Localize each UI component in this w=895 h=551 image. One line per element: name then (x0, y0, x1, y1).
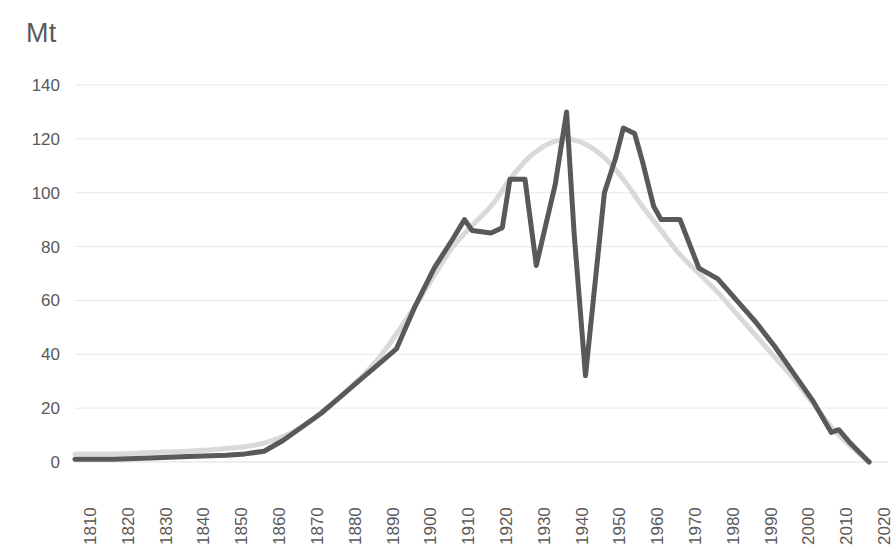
chart-plot-area (0, 0, 895, 551)
gridlines (75, 85, 888, 462)
chart-page: Mt 020406080100120140 181018201830184018… (0, 0, 895, 551)
series-line-actual (75, 112, 869, 462)
